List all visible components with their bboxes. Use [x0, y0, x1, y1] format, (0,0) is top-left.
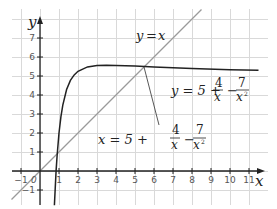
svg-text:2: 2	[75, 175, 81, 185]
svg-text:x: x	[193, 138, 200, 152]
chart: −11234567891011−11234567 y x 0 y = x y =…	[0, 0, 277, 209]
svg-text:8: 8	[189, 175, 195, 185]
svg-text:−1: −1	[14, 175, 27, 185]
y-axis-label: y	[27, 13, 37, 31]
svg-text:x: x	[158, 28, 166, 43]
svg-text:x = 5 +: x = 5 +	[98, 132, 148, 147]
annotation-curve-equation: y = 5 + 4 x − 7 x 2	[170, 76, 249, 104]
svg-text:2: 2	[201, 138, 205, 145]
svg-text:x: x	[171, 138, 178, 152]
svg-text:=: =	[146, 28, 157, 43]
svg-text:2: 2	[29, 128, 35, 138]
x-axis-label: x	[255, 172, 264, 190]
svg-text:9: 9	[208, 175, 214, 185]
svg-text:3: 3	[29, 109, 35, 119]
svg-text:−1: −1	[22, 185, 35, 195]
svg-text:x: x	[214, 90, 221, 104]
svg-text:4: 4	[172, 123, 180, 137]
svg-text:x: x	[236, 90, 243, 104]
svg-text:4: 4	[215, 76, 223, 90]
svg-text:4: 4	[29, 90, 35, 100]
svg-text:6: 6	[29, 52, 35, 62]
annotation-fixed-point-equation: x = 5 + 4 x − 7 x 2	[98, 123, 206, 152]
svg-text:5: 5	[29, 71, 35, 81]
svg-text:y: y	[135, 28, 144, 43]
svg-text:4: 4	[113, 175, 119, 185]
svg-text:10: 10	[224, 175, 236, 185]
svg-text:11: 11	[243, 175, 254, 185]
svg-text:1: 1	[56, 175, 62, 185]
svg-text:5: 5	[132, 175, 138, 185]
svg-text:6: 6	[151, 175, 157, 185]
svg-text:1: 1	[29, 147, 35, 157]
svg-text:7: 7	[170, 175, 176, 185]
svg-text:2: 2	[244, 90, 248, 97]
svg-text:7: 7	[196, 123, 204, 137]
svg-text:7: 7	[29, 33, 35, 43]
origin-label: 0	[31, 175, 37, 185]
annotation-y-equals-x: y = x	[135, 28, 166, 43]
svg-text:3: 3	[94, 175, 100, 185]
svg-text:7: 7	[238, 76, 246, 90]
